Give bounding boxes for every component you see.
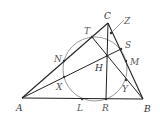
label-r: R <box>101 103 109 113</box>
point-r <box>105 98 108 101</box>
label-m: M <box>129 57 140 67</box>
point-m <box>125 60 127 62</box>
label-b: B <box>143 104 151 114</box>
label-y: Y <box>122 84 129 94</box>
point-y <box>125 79 127 81</box>
point-t <box>91 36 94 39</box>
point-z <box>110 32 112 34</box>
altitude-from-c <box>106 23 108 99</box>
z-pointer <box>111 20 124 33</box>
label-x: X <box>55 82 63 92</box>
label-z: Z <box>123 16 131 26</box>
point-l <box>81 98 83 100</box>
point-n <box>63 60 65 62</box>
label-t: T <box>84 26 91 36</box>
label-n: N <box>53 54 63 64</box>
label-s: S <box>125 40 131 50</box>
label-c: C <box>104 11 111 21</box>
label-h: H <box>94 63 103 73</box>
point-h <box>106 55 108 57</box>
label-l: L <box>76 103 83 113</box>
label-a: A <box>15 103 23 113</box>
point-x <box>63 76 65 78</box>
geometry-diagram: A B C T Z S M N H X Y L R <box>0 0 160 122</box>
point-s <box>120 48 123 51</box>
